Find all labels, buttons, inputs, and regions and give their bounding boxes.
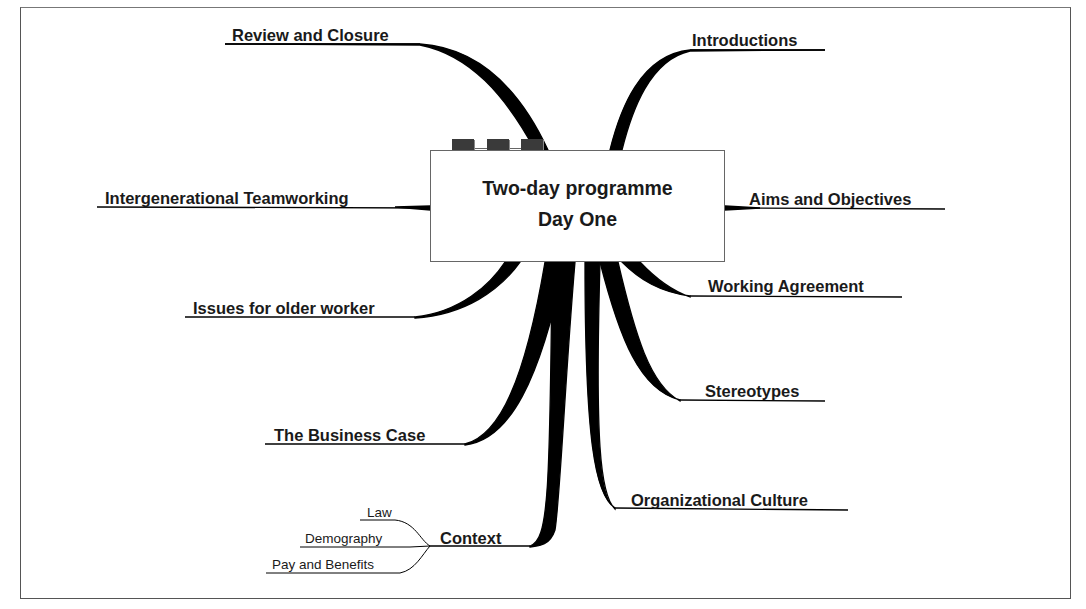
branch-introductions <box>610 50 825 150</box>
topic-organizational-culture[interactable]: Organizational Culture <box>631 492 808 509</box>
branch-stereotypes <box>600 262 680 401</box>
branch-working-agreement <box>622 262 690 297</box>
branch-lines <box>0 0 1086 609</box>
topic-stereotypes[interactable]: Stereotypes <box>705 383 799 400</box>
branch-issues <box>415 262 520 318</box>
topic-intergenerational-teamworking[interactable]: Intergenerational Teamworking <box>105 190 349 207</box>
subtopic-law[interactable]: Law <box>367 506 392 520</box>
topic-working-agreement[interactable]: Working Agreement <box>708 278 864 295</box>
subtopic-demography[interactable]: Demography <box>305 532 382 546</box>
topic-issues-older-worker[interactable]: Issues for older worker <box>193 300 375 317</box>
central-topic[interactable]: Two-day programme Day One <box>430 150 725 262</box>
branch-review <box>225 44 548 150</box>
topic-introductions[interactable]: Introductions <box>692 32 797 49</box>
topic-business-case[interactable]: The Business Case <box>274 427 425 444</box>
topic-aims-and-objectives[interactable]: Aims and Objectives <box>749 191 911 208</box>
subtopic-pay-and-benefits[interactable]: Pay and Benefits <box>272 558 374 572</box>
central-topic-title: Two-day programme <box>431 177 724 200</box>
topic-review-and-closure[interactable]: Review and Closure <box>232 27 389 44</box>
central-topic-subtitle: Day One <box>431 208 724 231</box>
topic-context[interactable]: Context <box>440 530 501 547</box>
